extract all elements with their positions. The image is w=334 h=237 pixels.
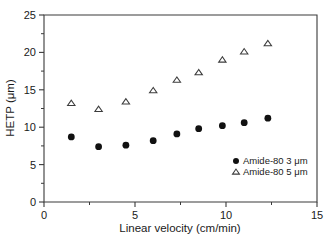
chart-figure: 051015 0510152025 Amide-80 3 μmAmide-80 … [0, 0, 334, 237]
legend-label: Amide-80 3 μm [243, 155, 308, 166]
y-tick-label: 20 [24, 46, 36, 58]
legend-marker-triangle [233, 169, 240, 174]
y-tick-label: 10 [24, 121, 36, 133]
data-point-circle [264, 115, 271, 122]
data-point-circle [241, 119, 248, 126]
y-tick-label: 25 [24, 9, 36, 21]
data-point-circle [195, 125, 202, 132]
series-2 [68, 40, 272, 111]
legend-entry: Amide-80 3 μm [233, 155, 308, 166]
data-point-triangle [264, 40, 271, 45]
data-point-circle [173, 131, 180, 138]
data-point-triangle [68, 100, 75, 105]
y-tick-label: 0 [30, 196, 36, 208]
legend-marker-circle [233, 158, 239, 164]
x-tick-label: 15 [311, 209, 323, 221]
x-tick-label: 5 [132, 209, 138, 221]
data-point-triangle [122, 99, 129, 104]
data-point-circle [219, 122, 226, 129]
y-tick-label: 15 [24, 84, 36, 96]
chart-legend: Amide-80 3 μmAmide-80 5 μm [233, 155, 308, 177]
data-point-circle [95, 143, 102, 150]
data-point-triangle [219, 57, 226, 62]
data-point-triangle [150, 87, 157, 92]
y-tick-label: 5 [30, 159, 36, 171]
scatter-plot: 051015 0510152025 Amide-80 3 μmAmide-80 … [0, 0, 334, 237]
data-point-triangle [241, 49, 248, 54]
x-axis-title: Linear velocity (cm/min) [119, 222, 241, 234]
data-point-circle [123, 142, 130, 149]
series-1 [68, 115, 271, 150]
data-point-circle [150, 137, 157, 144]
data-point-triangle [173, 77, 180, 82]
data-point-triangle [95, 106, 102, 111]
y-axis-title: HETP (μm) [4, 79, 16, 137]
x-tick-label: 0 [41, 209, 47, 221]
data-point-circle [68, 134, 75, 141]
legend-entry: Amide-80 5 μm [233, 166, 308, 177]
y-axis-tick-labels: 0510152025 [24, 9, 36, 208]
legend-label: Amide-80 5 μm [243, 166, 308, 177]
data-point-triangle [195, 70, 202, 75]
data-series-layer [68, 40, 272, 150]
x-axis-tick-labels: 051015 [41, 209, 323, 221]
x-tick-label: 10 [220, 209, 232, 221]
